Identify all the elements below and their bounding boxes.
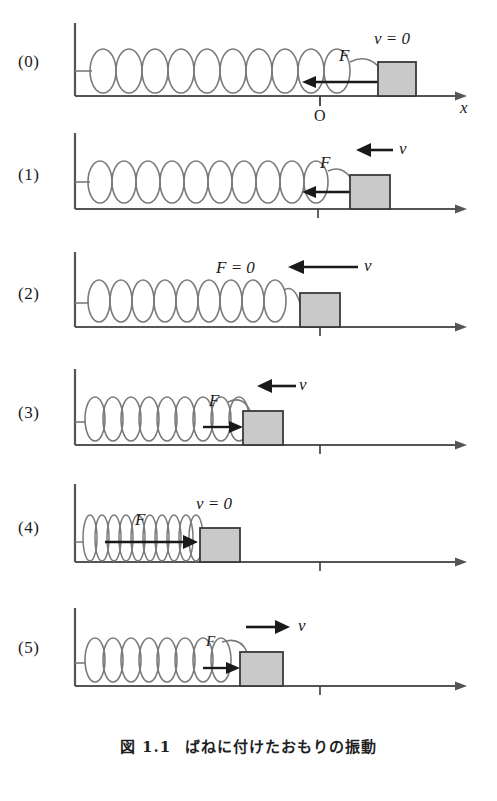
panel-0: (0) [0, 10, 497, 125]
force-label-3: F [209, 391, 219, 411]
panel-5-drawing [0, 590, 497, 705]
axis-arrowhead [455, 682, 467, 691]
block-mass [378, 62, 416, 96]
state-label-0: v = 0 [374, 29, 410, 49]
block-mass [240, 652, 283, 686]
state-label-4: v = 0 [196, 494, 232, 514]
force-label-1: F [320, 153, 330, 173]
spring-coils [75, 638, 247, 682]
spring-coils [75, 161, 350, 203]
force-label-0: F [339, 46, 349, 66]
velocity-arrow [356, 143, 393, 157]
panel-3: (3) [0, 355, 497, 470]
force-arrow [302, 76, 378, 88]
x-axis-label: x [460, 98, 468, 118]
block-mass [243, 411, 283, 445]
figure-caption: 図 1.1ばねに付けたおもりの振動 [0, 735, 497, 756]
state-label-2: v [364, 256, 372, 276]
force-label-5: F [206, 633, 215, 650]
spring-coils [75, 280, 300, 322]
force-arrow [203, 421, 243, 433]
axis-arrowhead [455, 323, 467, 332]
panel-4: (4) [0, 470, 497, 585]
axis-arrowhead [455, 205, 467, 214]
velocity-arrow [246, 620, 290, 634]
origin-label: O [314, 107, 326, 125]
panel-2: (2) [0, 240, 497, 355]
panel-1-drawing [0, 125, 497, 240]
block-mass [200, 528, 240, 562]
panel-4-drawing [0, 470, 497, 585]
axis-arrowhead [455, 558, 467, 567]
state-label-5: v [298, 616, 306, 636]
axis-arrowhead [455, 441, 467, 450]
spring-coils [75, 49, 378, 93]
state-label-3: v [299, 375, 307, 395]
figure-caption-label: 図 1.1 [120, 738, 171, 756]
figure-caption-text: ばねに付けたおもりの振動 [185, 738, 377, 756]
state-label-1: v [399, 139, 407, 159]
spring-coils [75, 397, 250, 441]
velocity-arrow [288, 260, 358, 274]
block-mass [350, 175, 390, 209]
spring-oscillation-figure: (0) [0, 0, 497, 801]
velocity-arrow [257, 379, 296, 393]
panel-5: (5) [0, 590, 497, 705]
force-label-2: F = 0 [216, 258, 255, 278]
panel-0-drawing [0, 10, 497, 125]
block-mass [300, 293, 340, 327]
panel-1: (1) [0, 125, 497, 240]
force-arrow [203, 662, 240, 674]
panel-3-drawing [0, 355, 497, 470]
force-arrow [302, 186, 350, 198]
force-label-4: F [135, 510, 145, 530]
